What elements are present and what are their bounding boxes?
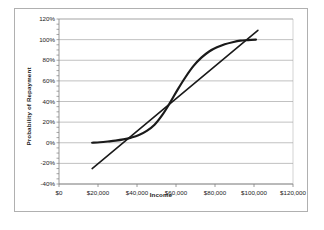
chart-figure: 120%100%80%60%40%20%0%-20%-40% $0$20,000…: [14, 8, 308, 212]
chart-plot-canvas: [15, 9, 309, 213]
y-tick-label: 120%: [25, 15, 55, 22]
x-tickmarks-group: [59, 184, 293, 187]
y-tick-label: 100%: [25, 36, 55, 43]
y-tick-label: -40%: [25, 180, 55, 187]
y-axis-title: Probability of Repayment: [25, 52, 32, 162]
x-axis-title: Income: [15, 191, 307, 198]
